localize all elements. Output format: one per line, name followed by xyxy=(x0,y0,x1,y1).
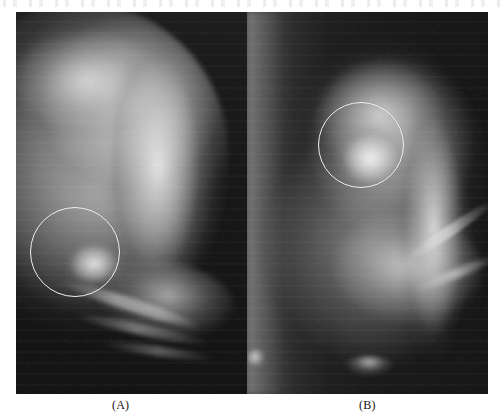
caption-row: (A) (B) xyxy=(0,396,501,419)
figure-root: (A) (B) xyxy=(0,0,501,419)
mammogram-panel-b[interactable] xyxy=(247,12,488,394)
scan-artifact xyxy=(0,0,501,7)
caption-panel-a: (A) xyxy=(112,398,129,413)
panel-container xyxy=(16,12,488,394)
annotation-circle-a[interactable] xyxy=(30,207,120,297)
annotation-circle-b[interactable] xyxy=(318,102,404,188)
film-background-a xyxy=(16,12,247,394)
mammogram-panel-a[interactable] xyxy=(16,12,247,394)
film-background-b xyxy=(247,12,488,394)
caption-panel-b: (B) xyxy=(359,398,376,413)
